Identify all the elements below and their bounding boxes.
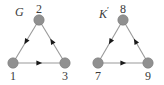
- graph-node[interactable]: [143, 58, 153, 68]
- nodes-layer: [8, 15, 153, 68]
- graph-node[interactable]: [118, 15, 128, 25]
- node-label: 3: [58, 70, 72, 82]
- edge-arrowhead: [107, 38, 114, 46]
- node-label: 7: [91, 70, 105, 82]
- graph-node[interactable]: [60, 58, 70, 68]
- graph-node[interactable]: [93, 58, 103, 68]
- graph-node[interactable]: [34, 15, 44, 25]
- arrowheads-layer: [22, 37, 139, 65]
- edges-layer: [13, 20, 148, 63]
- node-label: 8: [116, 3, 130, 15]
- edge-arrowhead: [132, 37, 139, 45]
- edge-arrowhead: [48, 37, 55, 45]
- edge-arrowhead: [36, 60, 42, 65]
- graph-title-prime: ′: [107, 5, 109, 15]
- graph-title: K′: [99, 6, 109, 20]
- node-label: 1: [6, 70, 20, 82]
- graph-title-text: K: [99, 7, 107, 21]
- graph-node[interactable]: [8, 58, 18, 68]
- graph-canvas: [0, 0, 164, 85]
- edge-arrowhead: [22, 38, 29, 46]
- graph-figure: 123G789K′: [0, 0, 164, 85]
- edge-arrowhead: [120, 60, 126, 65]
- node-label: 2: [32, 3, 46, 15]
- node-label: 9: [141, 70, 155, 82]
- graph-title: G: [15, 6, 24, 18]
- graph-title-text: G: [15, 5, 24, 19]
